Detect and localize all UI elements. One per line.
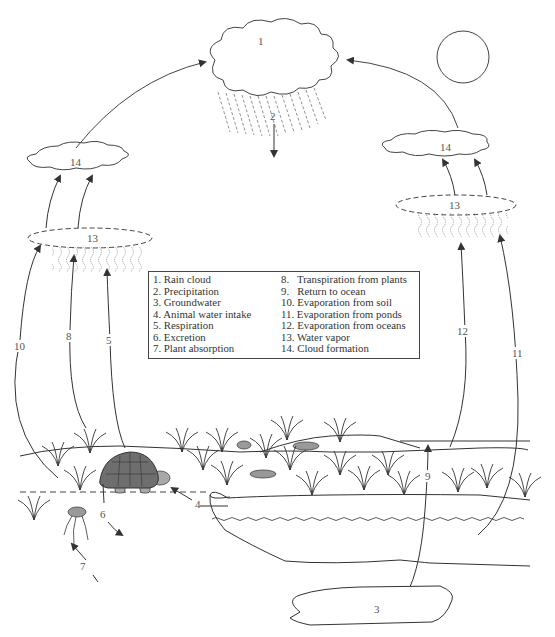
plant-absorption-tail — [93, 575, 98, 582]
legend-item: 7. Plant absorption — [153, 343, 281, 355]
label-animal-water-intake: 4 — [195, 498, 201, 510]
pond — [200, 492, 530, 566]
legend-left-column: 1. Rain cloud 2. Precipitation 3. Ground… — [153, 274, 281, 356]
arrow-evaporation-ponds — [478, 236, 518, 535]
label-evaporation-ponds: 11 — [512, 347, 523, 359]
legend-item: 10. Evaporation from soil — [281, 297, 415, 309]
label-respiration: 5 — [106, 334, 112, 346]
arrow-return-to-ocean — [400, 446, 428, 604]
arrow-left-cloud-to-rain — [76, 62, 205, 148]
legend-right-column: 8. Transpiration from plants 9. Return t… — [281, 274, 415, 356]
groundwater — [290, 586, 453, 625]
label-groundwater: 3 — [374, 603, 380, 615]
arrow-evaporation-soil — [15, 246, 58, 478]
turtle-icon — [100, 452, 170, 493]
legend: 1. Rain cloud 2. Precipitation 3. Ground… — [148, 271, 420, 359]
label-transpiration: 8 — [66, 330, 72, 342]
grass-plants — [18, 416, 541, 520]
arrow-right-cloud-to-rain — [348, 60, 458, 128]
plant-roots — [64, 507, 88, 545]
legend-item: 1. Rain cloud — [153, 274, 281, 286]
legend-item: 14. Cloud formation — [281, 343, 415, 355]
cloud-formation-right — [382, 130, 489, 156]
arrow-animal-water-intake — [172, 488, 192, 500]
arrow-vapor-to-cloud-left-2 — [78, 176, 92, 228]
label-water-vapor-left: 13 — [87, 232, 99, 244]
arrow-respiration — [107, 270, 125, 448]
legend-item: 5. Respiration — [153, 320, 281, 332]
label-evaporation-oceans: 12 — [457, 325, 468, 337]
arrow-vapor-to-cloud-right-2 — [475, 160, 487, 195]
label-precipitation: 2 — [270, 110, 276, 122]
legend-item: 3. Groundwater — [153, 297, 281, 309]
arrow-vapor-to-cloud-right-1 — [443, 160, 455, 195]
sun-icon — [437, 31, 489, 83]
label-plant-absorption: 7 — [80, 560, 86, 572]
label-cloud-formation-right: 14 — [440, 141, 452, 153]
arrow-vapor-to-cloud-left-1 — [46, 176, 60, 228]
arrow-evaporation-oceans — [450, 244, 466, 447]
legend-item: 8. Transpiration from plants — [281, 274, 415, 286]
label-cloud-formation-left: 14 — [70, 156, 82, 168]
label-water-vapor-right: 13 — [449, 199, 461, 211]
label-excretion: 6 — [100, 508, 106, 520]
label-evaporation-soil: 10 — [14, 340, 26, 352]
legend-item: 12. Evaporation from oceans — [281, 320, 415, 332]
label-rain-cloud: 1 — [258, 35, 264, 47]
label-return-to-ocean: 9 — [425, 470, 431, 482]
arrow-excretion — [108, 522, 122, 535]
arrow-plant-absorption — [72, 544, 86, 560]
